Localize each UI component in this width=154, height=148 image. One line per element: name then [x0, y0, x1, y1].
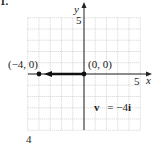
vector-equation: v = −4i: [94, 101, 131, 113]
x-axis-label: x: [145, 74, 151, 86]
vector-plot: x y 5 5 (−4, 0) (0, 0) v = −4i: [0, 0, 154, 148]
point-origin: [82, 72, 87, 77]
vector-arrowhead-icon: [44, 71, 52, 77]
y-tick-5: 5: [76, 14, 82, 26]
point-label-origin: (0, 0): [88, 58, 112, 71]
footer-number: 4: [26, 133, 32, 145]
y-axis-arrowhead-icon: [82, 2, 87, 8]
point-label-neg4-0: (−4, 0): [8, 58, 38, 71]
point-neg4-0: [37, 72, 42, 77]
x-tick-5: 5: [134, 75, 140, 87]
